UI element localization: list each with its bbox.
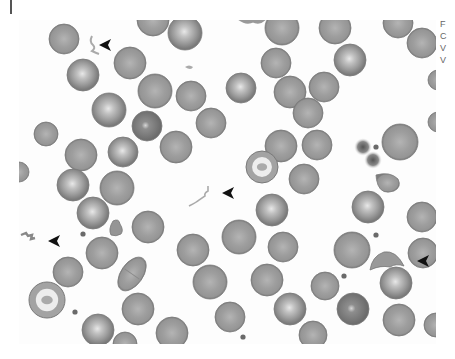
elongated-cell (112, 252, 152, 296)
red-blood-cell (251, 264, 283, 296)
debris-dot (72, 309, 77, 314)
red-blood-cell (428, 70, 436, 90)
red-blood-cell (177, 234, 209, 266)
red-blood-cell (407, 28, 436, 58)
red-blood-cell (138, 74, 172, 108)
caption-char: C (440, 30, 455, 42)
red-blood-cell (160, 131, 192, 163)
teardrop-cell (376, 174, 399, 192)
caption-char: F (440, 18, 455, 30)
micrograph-panel (19, 20, 436, 344)
red-blood-cell (289, 164, 319, 194)
arrowhead-icon (222, 187, 234, 199)
platelet-clump (364, 151, 382, 169)
red-blood-cell (311, 272, 339, 300)
corner-tick-mark (10, 0, 12, 14)
red-blood-cell (256, 194, 288, 226)
red-blood-cell (49, 24, 79, 54)
blood-smear-image (19, 20, 436, 344)
red-blood-cell (319, 20, 351, 44)
red-blood-cell (383, 20, 413, 38)
red-blood-cell (176, 81, 206, 111)
red-blood-cell (309, 72, 339, 102)
red-blood-cell (226, 73, 256, 103)
caption-char: V (440, 42, 455, 54)
debris-dot (373, 232, 378, 237)
platelet-fragment-4 (239, 20, 265, 22)
debris-dot (240, 334, 245, 339)
red-blood-cell (407, 202, 436, 232)
red-blood-cell (380, 267, 412, 299)
red-blood-cell (156, 317, 188, 344)
red-blood-cell (274, 293, 306, 325)
debris-dot (80, 231, 85, 236)
red-blood-cell (82, 314, 114, 344)
red-blood-cell (19, 162, 29, 182)
red-blood-cell (168, 20, 202, 50)
arrowhead-icon (99, 39, 111, 51)
red-blood-cell (122, 293, 154, 325)
platelet-fragment-2 (189, 186, 208, 206)
red-blood-cell (383, 304, 415, 336)
caption-fragment: F C V V (440, 18, 455, 66)
red-blood-cell (222, 220, 256, 254)
red-blood-cell (67, 59, 99, 91)
red-blood-cell (268, 232, 298, 262)
red-blood-cell (86, 237, 118, 269)
red-blood-cell (299, 321, 327, 344)
red-blood-cell (424, 313, 436, 337)
fragmented-cell (110, 220, 122, 236)
red-blood-cell (352, 191, 384, 223)
red-blood-cell (53, 257, 83, 287)
red-blood-cell (215, 302, 245, 332)
red-blood-cell (34, 122, 58, 146)
red-blood-cell (337, 293, 369, 325)
target-cell (246, 151, 278, 183)
red-blood-cell (193, 265, 227, 299)
red-blood-cell (92, 93, 126, 127)
red-blood-cell (113, 332, 137, 344)
red-blood-cell (293, 98, 323, 128)
red-blood-cell (100, 171, 134, 205)
red-blood-cell (196, 108, 226, 138)
red-blood-cell (334, 232, 370, 268)
red-blood-cell (265, 20, 299, 45)
red-blood-cell (108, 137, 138, 167)
red-blood-cell (261, 48, 291, 78)
caption-char: V (440, 54, 455, 66)
red-blood-cell (137, 20, 169, 36)
arrowhead-icon (48, 235, 60, 247)
red-blood-cells (19, 20, 436, 344)
platelet-fragment-5 (185, 66, 193, 70)
red-blood-cell (132, 111, 162, 141)
target-cell (29, 282, 65, 318)
platelet-fragment-1 (91, 36, 99, 54)
red-blood-cell (65, 139, 97, 171)
debris-dot (341, 273, 346, 278)
red-blood-cell (132, 211, 164, 243)
red-blood-cell (334, 44, 366, 76)
debris-dot (373, 144, 378, 149)
red-blood-cell (57, 169, 89, 201)
red-blood-cell (302, 130, 332, 160)
red-blood-cell (77, 197, 109, 229)
platelet-fragment-3 (21, 233, 35, 239)
red-blood-cell (428, 112, 436, 132)
red-blood-cell (114, 47, 146, 79)
red-blood-cell (382, 124, 418, 160)
